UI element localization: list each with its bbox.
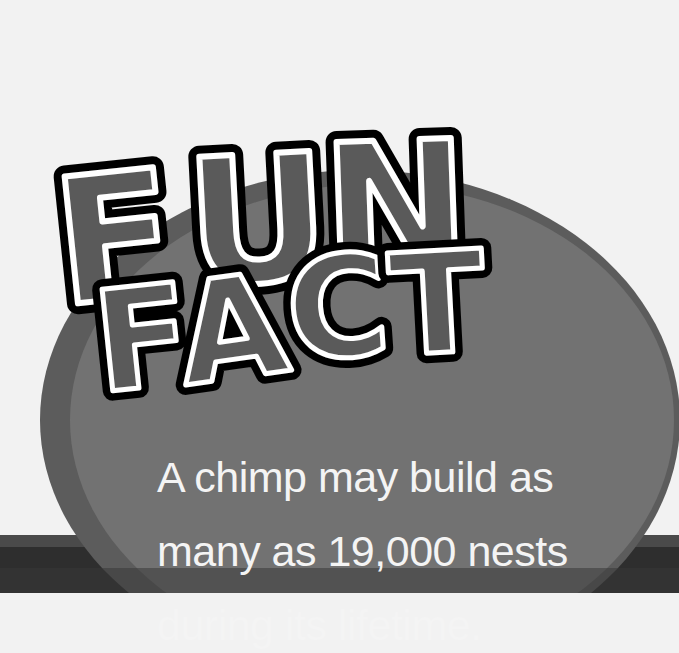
fact-line-1: A chimp may build as xyxy=(157,440,677,514)
svg-text:A: A xyxy=(167,241,297,417)
svg-text:T: T xyxy=(385,220,489,388)
fact-body: A chimp may build as many as 19,000 nest… xyxy=(157,440,677,653)
fact-title: F F A A C C T T xyxy=(0,0,679,420)
fact-line-3: during its lifetime. xyxy=(157,588,677,653)
fact-line-2: many as 19,000 nests xyxy=(157,514,677,588)
svg-text:C: C xyxy=(281,223,395,393)
